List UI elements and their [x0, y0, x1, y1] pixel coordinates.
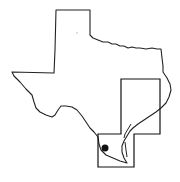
texas-state-outline — [12, 10, 171, 163]
study-area-boundary — [98, 79, 160, 167]
map-canvas — [0, 0, 180, 182]
texas-map — [0, 0, 180, 182]
site-marker-dot — [102, 145, 109, 152]
barrier-islands — [124, 124, 131, 157]
faint-dot — [76, 32, 78, 34]
